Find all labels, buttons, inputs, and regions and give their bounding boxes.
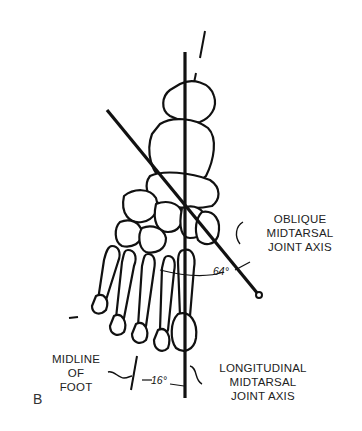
angle-64-label: 64° (213, 265, 229, 277)
label-line: LONGITUDINAL (208, 361, 318, 375)
label-line: JOINT AXIS (250, 240, 350, 254)
label-line: FOOT (44, 380, 108, 394)
label-line: JOINT AXIS (208, 389, 318, 403)
foot-bones (92, 81, 219, 351)
oblique-axis-label: OBLIQUE MIDTARSAL JOINT AXIS (250, 212, 350, 254)
label-line: MIDTARSAL (208, 375, 318, 389)
longitudinal-label-leader (190, 366, 202, 384)
panel-letter: B (33, 391, 42, 407)
label-line: OF (44, 366, 108, 380)
oblique-label-leader (236, 222, 243, 244)
midline-label-leader (108, 372, 132, 378)
oblique-axis-end-cap (256, 292, 262, 298)
label-line: MIDTARSAL (250, 226, 350, 240)
label-line: OBLIQUE (250, 212, 350, 226)
label-line: MIDLINE (44, 352, 108, 366)
midline-of-foot-label: MIDLINE OF FOOT (44, 352, 108, 394)
longitudinal-axis-label: LONGITUDINAL MIDTARSAL JOINT AXIS (208, 361, 318, 403)
angle-16-label: 16° (151, 374, 167, 386)
